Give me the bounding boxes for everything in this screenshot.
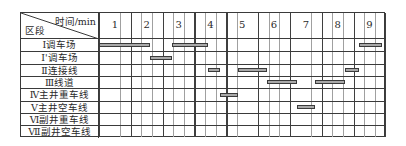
row-label: Ⅰ调车场 xyxy=(21,39,99,51)
time-tick: 2 xyxy=(131,13,163,38)
time-tick: 8 xyxy=(322,13,354,38)
time-tick: 5 xyxy=(226,13,258,38)
row-label: Ⅳ主井重车线 xyxy=(21,88,99,100)
time-axis-ticks: 1 2 3 4 5 6 7 8 9 xyxy=(99,13,386,39)
gantt-chart: 时间/min 区段 Ⅰ调车场 Ⅰ'调车场 Ⅱ连接线 Ⅲ线道 Ⅳ主井重车线 Ⅴ主井… xyxy=(20,12,385,137)
x-axis-label: 时间/min xyxy=(55,14,96,28)
time-tick: 3 xyxy=(163,13,195,38)
gantt-bar xyxy=(220,93,238,97)
gantt-bar xyxy=(238,68,267,72)
y-axis-label: 区段 xyxy=(25,23,45,37)
gantt-bar xyxy=(150,56,172,60)
row-labels: Ⅰ调车场 Ⅰ'调车场 Ⅱ连接线 Ⅲ线道 Ⅳ主井重车线 Ⅴ主井空车线 Ⅵ副井重车线… xyxy=(21,39,99,138)
row-label: Ⅲ线道 xyxy=(21,76,99,88)
time-tick: 9 xyxy=(354,13,386,38)
time-tick: 6 xyxy=(258,13,290,38)
gantt-bar xyxy=(172,43,208,47)
gantt-bar xyxy=(208,68,220,72)
row-label: Ⅴ主井空车线 xyxy=(21,101,99,113)
header-corner-cell: 时间/min 区段 xyxy=(21,13,99,39)
time-tick: 7 xyxy=(290,13,322,38)
row-label: Ⅰ'调车场 xyxy=(21,51,99,63)
row-label: Ⅱ连接线 xyxy=(21,64,99,76)
gantt-bar xyxy=(315,80,345,84)
gantt-bar xyxy=(297,105,315,109)
time-grid: 1 2 3 4 5 6 7 8 9 xyxy=(99,13,386,137)
time-tick: 4 xyxy=(194,13,226,38)
gantt-bar xyxy=(99,43,150,47)
gantt-bar xyxy=(267,80,297,84)
time-tick: 1 xyxy=(99,13,131,38)
gantt-bar xyxy=(345,68,360,72)
row-label: Ⅶ副井空车线 xyxy=(21,125,99,137)
gantt-bars xyxy=(99,39,386,137)
row-label: Ⅵ副井重车线 xyxy=(21,113,99,125)
gantt-bar xyxy=(359,43,382,47)
